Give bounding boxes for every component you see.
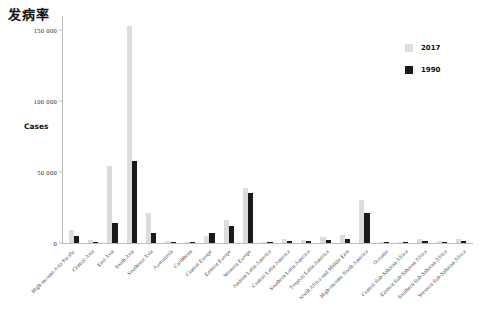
legend-item[interactable]: 2017 [405,44,440,52]
legend-label: 1990 [421,66,440,74]
bar-1990[interactable] [229,226,234,243]
y-axis-tick-label: 150 000 [34,27,62,34]
bar-group [83,16,102,243]
bar-group [219,16,238,243]
x-axis-tick-label: Andean Latin America [267,248,271,252]
bar-group [355,16,374,243]
x-axis-tick-label: Australasia [170,248,174,252]
bar-1990[interactable] [248,193,253,243]
bar-1990[interactable] [209,233,214,243]
bar-1990[interactable] [442,242,447,243]
x-axis-tick-label: Western Europe [248,248,252,252]
bar-1990[interactable] [403,242,408,243]
y-axis-label: Cases [24,122,49,131]
x-axis-tick-label: Caribbean [189,248,193,252]
x-axis-tick-label: Central Sub-Saharan Africa [404,248,408,252]
bar-1990[interactable] [326,240,331,243]
y-axis-tick-label: 100 000 [34,98,62,105]
bar-group [180,16,199,243]
x-axis-tick-label: Southern Latin America [307,248,311,252]
bar-1990[interactable] [287,241,292,243]
bar-group [103,16,122,243]
bar-group [258,16,277,243]
x-axis-tick-label: North Africa and Middle East [346,248,350,252]
x-axis-tick-label: Eastern Sub-Saharan Africa [424,248,428,252]
x-axis-tick-label: Southeast Asia [150,248,154,252]
x-axis-tick-label: Eastern Europe [228,248,232,252]
bar-group [142,16,161,243]
x-axis-tick-label: Central Latin America [287,248,291,252]
x-axis-tick-label: Western Sub-Saharan Africa [463,248,467,252]
bar-1990[interactable] [345,239,350,243]
bar-1990[interactable] [112,223,117,243]
bar-1990[interactable] [132,161,137,243]
x-axis-tick-label: High-income North America [365,248,369,252]
bar-group [277,16,296,243]
x-axis-tick-label: Oceania [385,248,389,252]
bar-1990[interactable] [74,236,79,243]
bar-1990[interactable] [171,242,176,243]
bar-group [452,16,471,243]
bar-group [200,16,219,243]
bar-1990[interactable] [93,242,98,243]
bar-group [297,16,316,243]
legend-item[interactable]: 1990 [405,66,440,74]
bar-1990[interactable] [306,241,311,243]
bar-group [64,16,83,243]
chart-title: 发病率 [8,4,50,23]
chart-container: 发病率 Cases 050 000100 000150 000 High-inc… [0,0,481,318]
legend-swatch [405,66,413,74]
x-axis-tick-label: East Asia [111,248,115,252]
bar-1990[interactable] [364,213,369,243]
x-axis-tick-label: Central Asia [91,248,95,252]
legend-swatch [405,44,413,52]
bar-1990[interactable] [151,233,156,243]
chart-legend: 20171990 [405,44,440,74]
x-axis-tick-label: South Asia [130,248,134,252]
bar-1990[interactable] [267,242,272,243]
bar-group [122,16,141,243]
legend-label: 2017 [421,44,440,52]
bar-1990[interactable] [190,242,195,243]
bar-group [374,16,393,243]
bar-1990[interactable] [422,241,427,243]
bar-group [161,16,180,243]
bar-group [316,16,335,243]
bar-group [335,16,354,243]
x-axis-tick-label: Tropical Latin America [326,248,330,252]
bar-1990[interactable] [384,242,389,243]
x-axis-labels: High-income Asia PacificCentral AsiaEast… [62,244,473,318]
bar-1990[interactable] [461,241,466,243]
bar-group [238,16,257,243]
x-axis-tick-label: High-income Asia Pacific [72,248,76,252]
x-axis-tick-label: Central Europe [209,248,213,252]
x-axis-tick-label: Southern Sub-Saharan Africa [444,248,448,252]
